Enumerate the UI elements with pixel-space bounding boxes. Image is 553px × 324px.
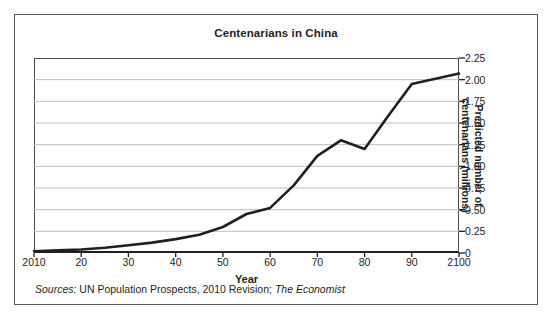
y-axis-title: Predicted number of centenarians (millio… (451, 58, 485, 253)
x-tick-label: 40 (170, 256, 182, 268)
x-tick-label: 70 (311, 256, 323, 268)
x-tick-label: 50 (217, 256, 229, 268)
x-tick-label: 30 (123, 256, 135, 268)
x-tick-label: 20 (75, 256, 87, 268)
sources-note: Sources: UN Population Prospects, 2010 R… (35, 283, 345, 295)
x-tick-label: 60 (264, 256, 276, 268)
data-line-series (34, 58, 459, 253)
y-axis-title-line2: centenarians (millions) (461, 98, 473, 212)
x-tick-label: 2100 (447, 256, 470, 268)
plot-wrapper (34, 58, 459, 253)
chart-figure: Centenarians in China 2.252.001.751.501.… (14, 14, 538, 305)
sources-text: UN Population Prospects, 2010 Revision; (76, 283, 274, 295)
series-line (34, 74, 459, 252)
sources-publication: The Economist (275, 283, 345, 295)
sources-label: Sources: (35, 283, 76, 295)
x-axis-tick-labels: 201020304050607080902100 (34, 256, 459, 272)
y-axis-title-line1: Predicted number of (473, 104, 485, 206)
chart-title: Centenarians in China (15, 27, 537, 39)
x-tick-label: 80 (359, 256, 371, 268)
x-tick-label: 2010 (22, 256, 45, 268)
x-tick-label: 90 (406, 256, 418, 268)
